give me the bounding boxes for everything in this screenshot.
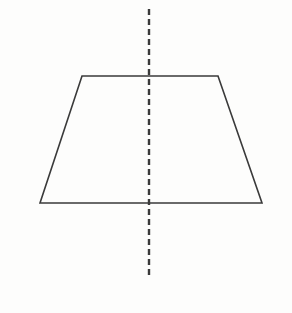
figure-background (0, 0, 292, 313)
geometry-figure (0, 0, 292, 313)
figure-canvas (0, 0, 292, 313)
